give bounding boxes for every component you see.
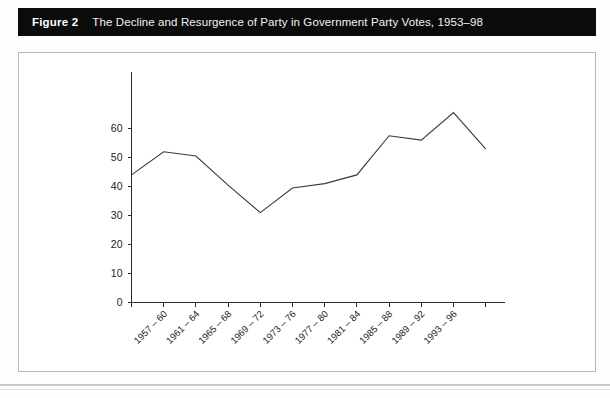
figure-title-bar: Figure 2 The Decline and Resurgence of P… — [18, 8, 596, 36]
figure-panel — [18, 52, 596, 372]
page-root: Figure 2 The Decline and Resurgence of P… — [0, 0, 610, 398]
footer-divider — [0, 384, 610, 386]
figure-caption: The Decline and Resurgence of Party in G… — [92, 16, 483, 28]
footer-divider-secondary — [0, 389, 610, 390]
figure-number-label: Figure 2 — [32, 16, 78, 28]
